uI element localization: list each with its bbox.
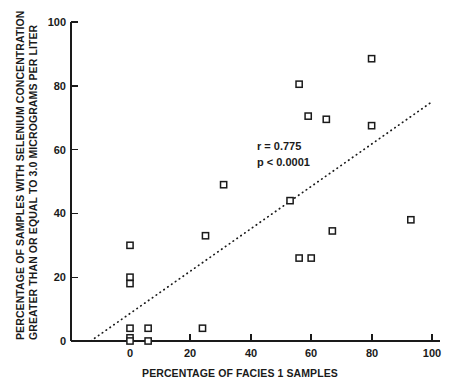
data-point: [296, 81, 302, 87]
regression-trend-line: [91, 102, 432, 341]
data-point: [202, 233, 208, 239]
annotation-p-value: p < 0.0001: [257, 156, 310, 168]
y-axis-ticks: [71, 22, 78, 341]
y-tick-label-20: 20: [54, 271, 66, 283]
data-point: [408, 217, 414, 223]
y-tick-label-100: 100: [48, 16, 66, 28]
x-tick-label-80: 80: [366, 347, 378, 359]
y-axis-tick-labels: 100 80 60 40 20 0: [48, 16, 66, 347]
x-tick-label-20: 20: [184, 347, 196, 359]
x-axis-tick-labels: 0 20 40 60 80 100: [127, 347, 441, 359]
data-point: [369, 56, 375, 62]
data-point: [127, 242, 133, 248]
data-point: [127, 338, 133, 344]
y-tick-label-60: 60: [54, 144, 66, 156]
data-point: [305, 113, 311, 119]
data-point: [127, 280, 133, 286]
data-point: [296, 255, 302, 261]
data-point: [308, 255, 314, 261]
x-tick-label-40: 40: [245, 347, 257, 359]
annotation-correlation-r: r = 0.775: [257, 140, 301, 152]
data-point: [127, 274, 133, 280]
x-tick-label-100: 100: [423, 347, 441, 359]
data-point: [323, 116, 329, 122]
y-tick-label-0: 0: [60, 335, 66, 347]
y-tick-label-40: 40: [54, 207, 66, 219]
data-point: [145, 338, 151, 344]
data-point: [145, 325, 151, 331]
y-tick-label-80: 80: [54, 80, 66, 92]
chart-canvas: PERCENTAGE OF SAMPLES WITH SELENIUM CONC…: [0, 0, 452, 388]
data-point: [221, 182, 227, 188]
x-axis-ticks: [130, 334, 432, 341]
data-point: [127, 325, 133, 331]
x-axis-title: PERCENTAGE OF FACIES 1 SAMPLES: [142, 367, 338, 379]
data-point-markers: [127, 56, 414, 345]
x-tick-label-0: 0: [127, 347, 133, 359]
data-point: [369, 123, 375, 129]
x-tick-label-60: 60: [305, 347, 317, 359]
scatter-plot-figure: PERCENTAGE OF SAMPLES WITH SELENIUM CONC…: [0, 0, 452, 388]
data-point: [287, 198, 293, 204]
y-axis-title-line1: PERCENTAGE OF SAMPLES WITH SELENIUM CONC…: [14, 11, 26, 340]
y-axis-title-line2: GREATER THAN OR EQUAL TO 3.0 MICROGRAMS …: [27, 24, 39, 340]
data-point: [199, 325, 205, 331]
data-point: [329, 228, 335, 234]
